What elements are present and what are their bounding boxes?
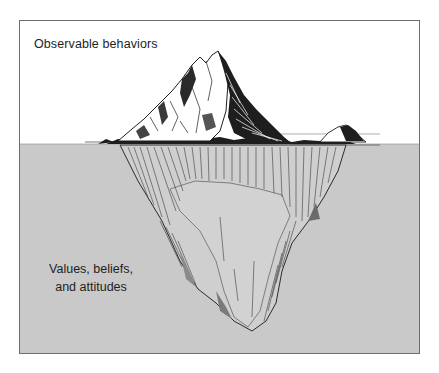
- values-beliefs-attitudes-label: Values, beliefs, and attitudes: [46, 260, 136, 296]
- label-line-1: Values, beliefs,: [46, 260, 136, 278]
- iceberg-above-water: [98, 51, 366, 144]
- iceberg-diagram-frame: Observable behaviors Values, beliefs, an…: [19, 20, 420, 354]
- observable-behaviors-label: Observable behaviors: [34, 37, 158, 51]
- iceberg-illustration: [20, 21, 420, 354]
- label-line-2: and attitudes: [46, 278, 136, 296]
- iceberg-underwater: [120, 145, 346, 331]
